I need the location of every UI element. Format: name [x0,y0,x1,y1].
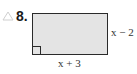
right-side-label: x − 2 [111,26,134,38]
rectangle-figure [32,13,108,55]
triangle-icon [2,11,14,21]
right-angle-marker [33,46,41,54]
problem-number: 8. [16,8,28,24]
bottom-side-label: x + 3 [58,57,81,69]
